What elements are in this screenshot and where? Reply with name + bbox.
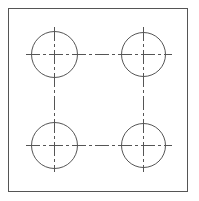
drawing-frame — [9, 9, 188, 192]
holes — [32, 32, 166, 169]
hole-pattern-drawing — [0, 0, 199, 201]
centerlines — [26, 27, 172, 172]
